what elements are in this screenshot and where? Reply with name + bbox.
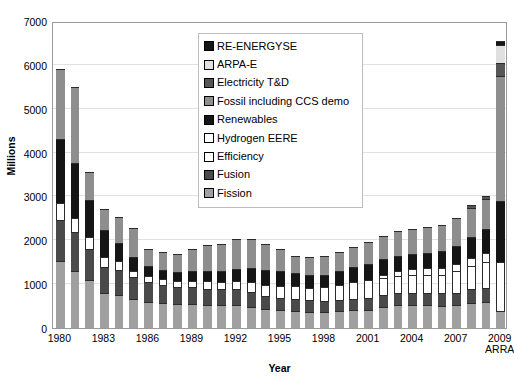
- bar-segment: [335, 311, 344, 328]
- bar: [379, 236, 388, 328]
- bar-segment: [423, 268, 432, 275]
- bar-segment: [438, 275, 447, 294]
- legend-item: Efficiency: [204, 147, 358, 165]
- bar-segment: [482, 199, 491, 229]
- bar: [144, 249, 153, 328]
- bar-segment: [188, 281, 197, 288]
- bar-segment: [203, 271, 212, 281]
- legend-swatch-icon: [204, 170, 214, 180]
- bar-segment: [467, 266, 476, 290]
- bar-segment: [349, 310, 358, 328]
- bar-segment: [261, 296, 270, 309]
- bar: [482, 196, 491, 328]
- bar-segment: [394, 276, 403, 294]
- x-tick-label: 1986: [136, 333, 159, 344]
- bar-segment: [467, 258, 476, 266]
- legend-swatch-icon: [204, 60, 214, 70]
- bar-segment: [335, 252, 344, 271]
- bar-segment: [349, 299, 358, 310]
- bar-segment: [159, 270, 168, 279]
- bar: [305, 257, 314, 328]
- bar: [276, 249, 285, 328]
- bar-segment: [85, 237, 94, 249]
- bar-segment: [349, 282, 358, 299]
- bar-segment: [320, 287, 329, 301]
- bar-segment: [335, 271, 344, 285]
- bar-segment: [56, 220, 65, 262]
- x-tick-label: 2007: [444, 333, 467, 344]
- bar: [394, 231, 403, 328]
- bar-segment: [129, 277, 138, 299]
- bar-segment: [379, 295, 388, 307]
- bar-segment: [203, 289, 212, 306]
- bar-segment: [452, 218, 461, 246]
- bar-segment: [364, 242, 373, 264]
- legend-item: Electricity T&D: [204, 74, 358, 92]
- bar-segment: [144, 249, 153, 267]
- bar-segment: [261, 270, 270, 285]
- bar-segment: [232, 269, 241, 281]
- legend-swatch-icon: [204, 41, 214, 51]
- bar: [247, 239, 256, 328]
- x-tick-label: 1998: [312, 333, 335, 344]
- bar-segment: [159, 285, 168, 303]
- bar-segment: [467, 208, 476, 237]
- bar-segment: [496, 63, 505, 76]
- bar: [173, 254, 182, 328]
- bar: [320, 256, 329, 328]
- bar-segment: [247, 268, 256, 282]
- bar-segment: [423, 275, 432, 293]
- bar-segment: [408, 254, 417, 269]
- y-axis-title: Millions: [5, 121, 17, 191]
- y-tick-label: 4000: [24, 149, 47, 159]
- bar-segment: [496, 45, 505, 63]
- bar-segment: [203, 281, 212, 288]
- bar-segment: [232, 289, 241, 305]
- legend-label: Fusion: [217, 169, 250, 180]
- bar: [71, 87, 80, 328]
- bar-segment: [467, 237, 476, 258]
- bar-segment: [232, 281, 241, 290]
- bar-segment: [247, 292, 256, 306]
- bar-segment: [56, 203, 65, 220]
- y-axis: Millions 01000200030004000500060007000: [0, 0, 52, 340]
- bar-segment: [276, 249, 285, 271]
- bar-segment: [408, 293, 417, 305]
- y-tick-label: 7000: [24, 17, 47, 27]
- bar: [203, 245, 212, 328]
- bar-segment: [217, 305, 226, 328]
- bar-segment: [379, 236, 388, 259]
- bar-segment: [261, 244, 270, 269]
- bar-segment: [203, 305, 212, 328]
- bar: [291, 256, 300, 328]
- bar-segment: [159, 252, 168, 270]
- bar-segment: [305, 312, 314, 328]
- bar-segment: [129, 228, 138, 257]
- bar-segment: [100, 230, 109, 256]
- bar-segment: [232, 305, 241, 328]
- bar-segment: [305, 288, 314, 301]
- bar-segment: [438, 268, 447, 275]
- x-tick-label: 2009 ARRA: [485, 333, 514, 355]
- bar: [85, 172, 94, 328]
- bar-segment: [423, 227, 432, 253]
- legend-label: Fossil including CCS demo: [217, 96, 349, 107]
- bar: [408, 229, 417, 328]
- bar-segment: [452, 305, 461, 328]
- bar-segment: [335, 300, 344, 311]
- bar: [452, 217, 461, 328]
- legend-label: ARPA-E: [217, 59, 257, 70]
- bar-segment: [408, 305, 417, 328]
- bar-segment: [364, 298, 373, 310]
- legend-label: Electricity T&D: [217, 77, 289, 88]
- bar-segment: [452, 246, 461, 264]
- bar-segment: [71, 218, 80, 232]
- legend-swatch-icon: [204, 115, 214, 125]
- bar: [423, 227, 432, 328]
- bar: [349, 247, 358, 328]
- bar: [232, 239, 241, 328]
- bar-segment: [173, 272, 182, 281]
- bar: [261, 244, 270, 328]
- bar-segment: [394, 293, 403, 305]
- legend-label: Efficiency: [217, 151, 264, 162]
